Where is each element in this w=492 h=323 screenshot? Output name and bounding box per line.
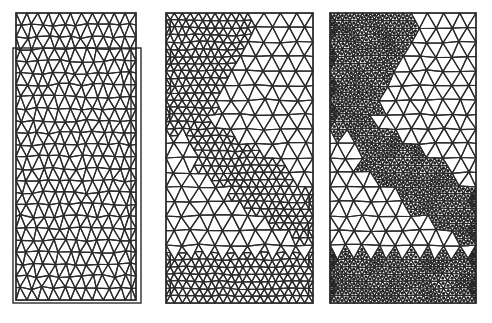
mesh-panel-refined-with-nodes (330, 13, 477, 303)
mesh-panel-refined (166, 13, 313, 303)
mesh-figure (0, 0, 492, 323)
mesh-panel-original (13, 13, 141, 303)
mesh-canvas (0, 0, 492, 323)
